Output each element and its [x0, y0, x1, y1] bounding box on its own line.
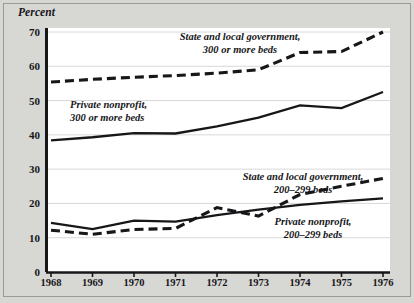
x-axis-tick-label: 1976	[361, 277, 405, 288]
chart-figure: Percent 010203040506070 1968196919701971…	[0, 0, 414, 303]
annotation-private-nonprofit-300: Private nonprofit, 300 or more beds	[70, 98, 230, 124]
annotation-line-2: 200–299 beds	[218, 183, 388, 196]
x-axis-tick-label: 1968	[29, 277, 73, 288]
annotation-state-local-300: State and local government, 300 or more …	[150, 30, 330, 56]
annotation-line-1: State and local government,	[218, 170, 388, 183]
annotation-line-1: Private nonprofit,	[238, 215, 388, 228]
x-axis-tick-label: 1971	[154, 277, 198, 288]
annotation-state-local-200: State and local government, 200–299 beds	[218, 170, 388, 196]
annotation-line-1: State and local government,	[150, 30, 330, 43]
x-axis-tick-label: 1974	[278, 277, 322, 288]
annotation-line-2: 300 or more beds	[70, 111, 230, 124]
x-axis-tick-label: 1972	[195, 277, 239, 288]
x-axis-tick-label: 1975	[320, 277, 364, 288]
x-axis-tick-label: 1970	[112, 277, 156, 288]
annotation-private-nonprofit-200: Private nonprofit, 200–299 beds	[238, 215, 388, 241]
x-axis-tick-label: 1969	[71, 277, 115, 288]
annotation-line-2: 200–299 beds	[238, 228, 388, 241]
annotation-line-2: 300 or more beds	[150, 43, 330, 56]
annotation-line-1: Private nonprofit,	[70, 98, 230, 111]
x-axis-tick-label: 1973	[237, 277, 281, 288]
